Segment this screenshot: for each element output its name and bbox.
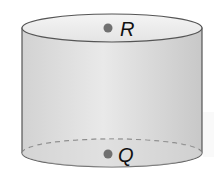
point-q-dot — [104, 150, 113, 159]
cylinder-diagram: R Q — [0, 0, 214, 178]
background-texture — [203, 112, 214, 157]
point-q-label: Q — [118, 144, 134, 166]
point-r-dot — [104, 24, 113, 33]
point-r-label: R — [120, 18, 134, 40]
